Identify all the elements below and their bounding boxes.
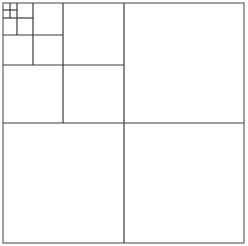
recursive-square-diagram	[0, 0, 248, 246]
subdivision-lines	[3, 3, 244, 243]
